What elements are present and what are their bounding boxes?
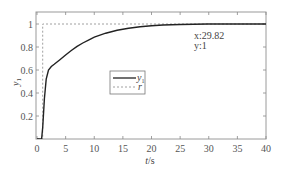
datatip-y: y:1 bbox=[194, 40, 207, 51]
x-tick-label: 10 bbox=[89, 143, 99, 154]
y-tick-label: 0.6 bbox=[21, 65, 34, 76]
x-tick-label: 25 bbox=[175, 143, 185, 154]
step-response-chart: 0510152025303540 0.20.40.60.81 x:29.82 y… bbox=[0, 0, 282, 172]
y-tick-label: 0.2 bbox=[21, 111, 34, 122]
x-tick-label: 15 bbox=[118, 143, 128, 154]
x-tick-label: 40 bbox=[261, 143, 271, 154]
y-axis-label: y1 bbox=[10, 78, 23, 87]
y-tick-label: 0.4 bbox=[21, 88, 34, 99]
x-tick-label: 20 bbox=[147, 143, 157, 154]
x-tick-label: 0 bbox=[35, 143, 40, 154]
x-tick-label: 35 bbox=[232, 143, 242, 154]
x-tick-label: 5 bbox=[63, 143, 68, 154]
x-tick-label: 30 bbox=[204, 143, 214, 154]
legend: y1 r bbox=[110, 71, 145, 94]
x-axis-label: t/s bbox=[145, 155, 155, 166]
plot-area bbox=[36, 12, 266, 139]
y-tick-label: 0.8 bbox=[21, 42, 34, 53]
legend-label-r: r bbox=[138, 81, 142, 92]
y-tick-label: 1 bbox=[28, 19, 33, 30]
